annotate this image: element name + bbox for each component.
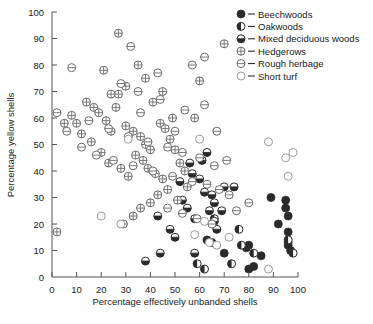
data-point xyxy=(235,225,243,233)
data-point xyxy=(196,154,204,162)
data-point xyxy=(92,151,100,159)
data-point xyxy=(78,143,86,151)
data-point xyxy=(284,172,292,180)
x-tick-label: 60 xyxy=(194,284,205,295)
y-tick-label: 70 xyxy=(33,86,44,97)
data-point xyxy=(188,178,196,186)
data-point xyxy=(137,133,145,141)
data-point xyxy=(164,143,172,151)
x-tick-label: 30 xyxy=(121,284,132,295)
legend-item-rough-herbage[interactable]: Rough herbage xyxy=(237,58,324,69)
data-point xyxy=(245,265,253,273)
y-tick-label: 20 xyxy=(33,219,44,230)
legend-item-beechwoods[interactable]: Beechwoods xyxy=(237,9,313,20)
y-tick-label: 80 xyxy=(33,60,44,71)
legend-marker-open-circle xyxy=(237,72,245,80)
data-point xyxy=(208,191,216,199)
data-point xyxy=(85,117,93,125)
data-point xyxy=(97,212,105,220)
data-point xyxy=(154,191,162,199)
data-point xyxy=(78,130,86,138)
data-point xyxy=(245,199,253,207)
data-point xyxy=(284,212,292,220)
data-point xyxy=(63,127,71,135)
data-point xyxy=(117,80,125,88)
data-point xyxy=(196,175,204,183)
data-point xyxy=(73,119,81,127)
data-point xyxy=(141,257,149,265)
data-point xyxy=(223,156,231,164)
legend-label: Oakwoods xyxy=(258,21,303,32)
legend-item-oakwoods[interactable]: Oakwoods xyxy=(237,21,303,32)
data-point xyxy=(178,209,186,217)
data-point xyxy=(114,90,122,98)
data-point xyxy=(141,74,149,82)
data-point xyxy=(53,109,61,117)
data-point xyxy=(282,204,290,212)
data-point xyxy=(134,88,142,96)
data-point xyxy=(159,175,167,183)
data-point xyxy=(105,125,113,133)
data-point xyxy=(102,117,110,125)
data-point xyxy=(154,212,162,220)
x-tick-label: 20 xyxy=(96,284,107,295)
data-point xyxy=(289,148,297,156)
data-point xyxy=(210,199,218,207)
data-point xyxy=(100,66,108,74)
legend-item-short-turf[interactable]: Short turf xyxy=(237,71,297,82)
data-point xyxy=(233,207,241,215)
legend-marker-filled-circle xyxy=(237,10,245,18)
data-point xyxy=(176,178,184,186)
data-point xyxy=(220,40,228,48)
data-point xyxy=(164,204,172,212)
data-point xyxy=(161,125,169,133)
data-point xyxy=(267,194,275,202)
data-point xyxy=(82,98,90,106)
data-point xyxy=(289,249,297,257)
y-tick-label: 30 xyxy=(33,192,44,203)
x-tick-label: 100 xyxy=(290,284,306,295)
data-point xyxy=(156,249,164,257)
data-point xyxy=(132,151,140,159)
legend-item-mixed-deciduous-woods[interactable]: Mixed deciduous woods xyxy=(237,33,360,44)
data-point xyxy=(171,127,179,135)
y-tick-label: 90 xyxy=(33,33,44,44)
x-axis-title: Percentage effectively unbanded shells xyxy=(92,296,257,307)
data-point xyxy=(122,122,130,130)
data-point xyxy=(264,265,272,273)
data-point xyxy=(191,114,199,122)
data-point xyxy=(107,90,115,98)
data-point xyxy=(129,162,137,170)
data-point xyxy=(137,109,145,117)
data-point xyxy=(213,127,221,135)
data-point xyxy=(191,231,199,239)
legend: BeechwoodsOakwoodsMixed deciduous woodsH… xyxy=(237,9,360,82)
data-point xyxy=(169,114,177,122)
legend-label: Rough herbage xyxy=(258,58,324,69)
x-tick-label: 40 xyxy=(145,284,156,295)
x-tick-label: 50 xyxy=(170,284,181,295)
data-point xyxy=(188,61,196,69)
data-point xyxy=(274,220,282,228)
legend-item-hedgerows[interactable]: Hedgerows xyxy=(237,46,306,57)
data-point xyxy=(124,135,132,143)
data-point xyxy=(193,260,201,268)
data-point xyxy=(257,252,265,260)
data-point xyxy=(213,241,221,249)
x-tick-label: 70 xyxy=(219,284,230,295)
data-point xyxy=(237,241,245,249)
data-point xyxy=(171,146,179,154)
data-point xyxy=(201,53,209,61)
data-point xyxy=(225,191,233,199)
data-point xyxy=(117,220,125,228)
x-tick-label: 0 xyxy=(49,284,54,295)
legend-marker-half-left-circle xyxy=(237,22,245,30)
y-tick-label: 100 xyxy=(28,7,44,18)
y-tick-label: 40 xyxy=(33,166,44,177)
data-point xyxy=(110,156,118,164)
data-point xyxy=(127,42,135,50)
data-point xyxy=(159,88,167,96)
data-point xyxy=(114,29,122,37)
data-point xyxy=(203,148,211,156)
data-point xyxy=(134,61,142,69)
